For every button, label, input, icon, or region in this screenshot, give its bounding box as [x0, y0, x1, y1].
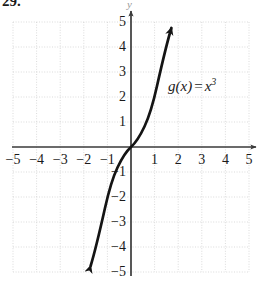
y-tick-label-4: 4 [106, 40, 126, 54]
y-tick-label-neg5: −5 [100, 265, 126, 279]
figure-screenshot: 29. [0, 0, 266, 283]
x-tick-label-neg5: −5 [6, 153, 21, 167]
curve-equation-lhs: g(x) [168, 78, 192, 94]
graph-canvas [0, 0, 266, 283]
curve-equation-label: g(x)=x3 [168, 74, 216, 94]
curve-equation-equals: = [192, 78, 204, 94]
x-tick-label-neg2: −2 [76, 153, 91, 167]
y-tick-label-3: 3 [106, 65, 126, 79]
x-tick-label-neg4: −4 [29, 153, 44, 167]
x-tick-label-2: 2 [175, 153, 182, 167]
x-tick-label-5: 5 [246, 153, 253, 167]
x-tick-label-neg3: −3 [53, 153, 68, 167]
y-tick-label-neg4: −4 [100, 240, 126, 254]
x-tick-label-3: 3 [198, 153, 205, 167]
y-tick-label-neg1: −1 [100, 165, 126, 179]
y-axis-label: y [127, 0, 132, 10]
x-tick-label-4: 4 [222, 153, 229, 167]
y-tick-label-1: 1 [106, 115, 126, 129]
y-tick-label-neg2: −2 [100, 190, 126, 204]
curve-equation-exponent: 3 [211, 76, 216, 87]
x-tick-label-1: 1 [151, 153, 158, 167]
y-tick-label-5: 5 [106, 15, 126, 29]
y-tick-label-2: 2 [106, 90, 126, 104]
y-tick-label-neg3: −3 [100, 215, 126, 229]
coordinate-plane-figure: y −5 −4 −3 −2 −1 1 2 3 4 5 5 4 3 2 1 −1 … [0, 0, 266, 283]
